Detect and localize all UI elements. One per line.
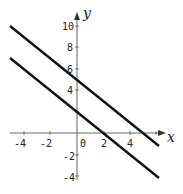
y-axis-arrow-icon [74, 12, 80, 20]
xtick-label: -2 [40, 138, 52, 149]
chart: -4 -2 0 2 4 10 8 6 4 -2 -4 y x [0, 0, 183, 194]
ytick-label: 4 [67, 85, 73, 96]
series-line-lower [10, 58, 159, 178]
ytick-label: 8 [67, 42, 73, 53]
ytick-label: -2 [63, 151, 75, 162]
y-axis-label: y [82, 5, 92, 21]
series-line-upper [10, 26, 159, 146]
xtick-label: -4 [14, 138, 26, 149]
xtick-label: 4 [127, 138, 133, 149]
ytick-label: -4 [63, 172, 75, 183]
xtick-label: 0 [80, 138, 86, 149]
xtick-label: 2 [101, 138, 107, 149]
x-axis-label: x [167, 129, 175, 145]
x-axis-arrow-icon [158, 130, 166, 136]
ytick-label: 10 [62, 21, 74, 32]
